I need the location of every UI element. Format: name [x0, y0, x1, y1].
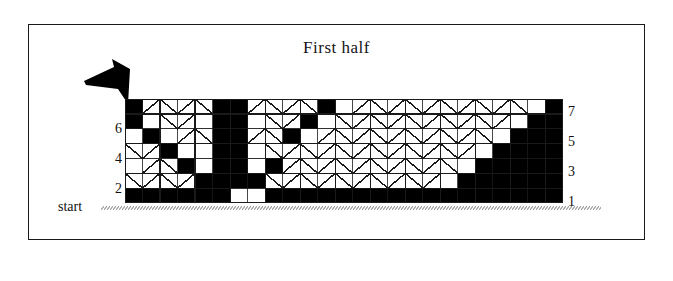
filled-cell — [265, 188, 283, 203]
filled-cell — [458, 188, 476, 203]
filled-cell — [510, 188, 528, 203]
filled-cell — [318, 188, 336, 203]
filled-cell — [213, 188, 231, 203]
filled-cell — [545, 144, 563, 159]
filled-cell — [230, 114, 248, 129]
filled-cell — [213, 99, 231, 114]
axis-label-left-6: 6 — [104, 122, 122, 136]
filled-cell — [178, 188, 196, 203]
filled-cell — [265, 158, 283, 173]
filled-cell — [353, 188, 371, 203]
filled-cell — [545, 99, 563, 114]
filled-cell — [230, 158, 248, 173]
filled-cell — [300, 188, 318, 203]
filled-cell — [388, 188, 406, 203]
filled-cell — [545, 158, 563, 173]
ground-hatch-line — [101, 206, 601, 210]
filled-cell — [545, 188, 563, 203]
filled-cell — [143, 188, 161, 203]
filled-cell — [230, 99, 248, 114]
filled-cell — [230, 144, 248, 159]
filled-cell — [125, 99, 143, 114]
filled-cell — [440, 188, 458, 203]
filled-cell — [475, 158, 493, 173]
filled-cell — [248, 173, 266, 188]
axis-label-right-5: 5 — [568, 135, 586, 149]
filled-cell — [125, 188, 143, 203]
filled-cell — [510, 158, 528, 173]
filled-cell — [510, 129, 528, 144]
filled-cell — [213, 129, 231, 144]
pattern-chart-figure: First half 6 4 2 7 5 3 1 start — [0, 0, 673, 281]
filled-cell — [423, 188, 441, 203]
filled-cell — [493, 158, 511, 173]
filled-cell — [213, 173, 231, 188]
direction-arrowhead-icon — [84, 59, 140, 104]
filled-cell — [528, 188, 546, 203]
filled-cell — [143, 129, 161, 144]
filled-cell — [370, 188, 388, 203]
filled-cell — [283, 129, 301, 144]
start-label: start — [58, 199, 82, 215]
filled-cell — [213, 158, 231, 173]
filled-cell — [545, 173, 563, 188]
filled-cell — [510, 144, 528, 159]
filled-cell — [283, 188, 301, 203]
filled-cell — [493, 144, 511, 159]
filled-cell — [160, 188, 178, 203]
chart-title: First half — [0, 38, 673, 58]
axis-label-left-4: 4 — [104, 152, 122, 166]
filled-cell — [528, 144, 546, 159]
filled-cell — [405, 188, 423, 203]
filled-cell — [510, 173, 528, 188]
filled-cell — [528, 114, 546, 129]
filled-cell — [300, 114, 318, 129]
axis-label-left-2: 2 — [104, 182, 122, 196]
axis-label-right-7: 7 — [568, 105, 586, 119]
filled-cell — [528, 129, 546, 144]
filled-cell — [318, 99, 336, 114]
filled-cell — [213, 144, 231, 159]
filled-cell — [213, 114, 231, 129]
filled-cell — [475, 188, 493, 203]
filled-cell — [335, 188, 353, 203]
filled-cell — [125, 114, 143, 129]
axis-label-right-1: 1 — [568, 195, 586, 209]
filled-cell — [545, 114, 563, 129]
filled-cell — [195, 173, 213, 188]
filled-cell — [230, 173, 248, 188]
filled-cell — [160, 144, 178, 159]
filled-cell — [458, 173, 476, 188]
filled-cell — [230, 129, 248, 144]
filled-cell — [528, 158, 546, 173]
filled-cell — [545, 129, 563, 144]
filled-cell — [195, 188, 213, 203]
filled-cell — [528, 173, 546, 188]
axis-label-right-3: 3 — [568, 165, 586, 179]
filled-cell — [493, 173, 511, 188]
filled-cell — [493, 188, 511, 203]
filled-cell — [475, 173, 493, 188]
filled-cell — [178, 158, 196, 173]
pattern-grid — [125, 99, 563, 203]
